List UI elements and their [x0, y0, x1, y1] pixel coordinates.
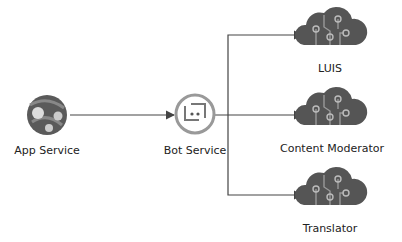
node-label-app-service: App Service: [14, 144, 80, 157]
cognitive-cloud-icon-luis: [295, 7, 367, 45]
connector-lines: [0, 0, 402, 242]
node-label-translator: Translator: [303, 222, 357, 235]
edge-bot-to-luis: [228, 35, 302, 115]
cognitive-cloud-icon-content-moderator: [295, 87, 367, 125]
app-service-icon: [27, 95, 67, 135]
node-label-content-moderator: Content Moderator: [280, 142, 384, 155]
node-label-bot-service: Bot Service: [164, 144, 227, 157]
cognitive-cloud-icon-translator: [295, 167, 367, 205]
node-label-luis: LUIS: [318, 62, 342, 75]
bot-icon: [176, 95, 214, 133]
edge-bot-to-translator: [228, 115, 302, 195]
